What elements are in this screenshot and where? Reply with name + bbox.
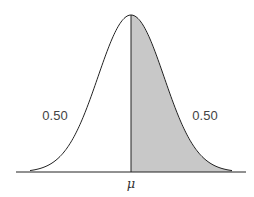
left-area-label: 0.50 [42,108,67,123]
normal-curve-diagram: 0.50 0.50 μ [0,0,254,197]
shaded-right-half [131,15,232,172]
right-area-label: 0.50 [192,108,217,123]
mean-label: μ [127,176,135,191]
